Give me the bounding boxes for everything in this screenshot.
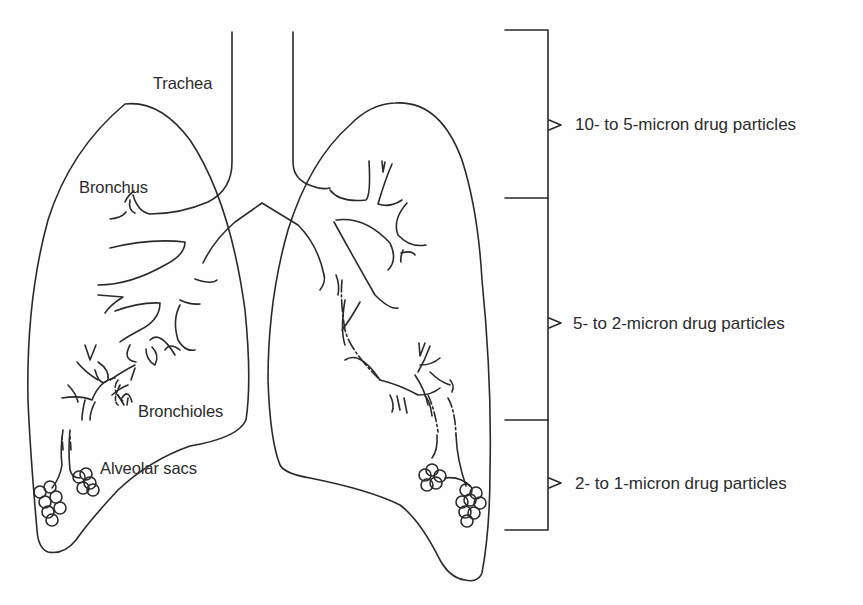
- arrow-marker-upper-icon: [549, 120, 561, 130]
- main-bronchi: [195, 203, 325, 290]
- label-bronchus: Bronchus: [79, 179, 148, 196]
- label-trachea: Trachea: [153, 75, 212, 92]
- range-label-2-to-1-micron: 2- to 1-micron drug particles: [575, 475, 787, 492]
- deposition-bracket: [505, 30, 548, 530]
- right-alveolar-sacs: [419, 464, 486, 527]
- range-arrow-markers: [549, 120, 561, 488]
- label-bronchioles: Bronchioles: [138, 403, 223, 420]
- arrow-marker-lower-icon: [549, 478, 561, 488]
- right-bronchial-tree: [330, 161, 470, 486]
- left-alveolar-sacs: [34, 468, 99, 526]
- lung-illustration: [0, 0, 863, 605]
- left-bronchial-tree: [52, 191, 200, 488]
- label-alveolar-sacs: Alveolar sacs: [100, 460, 197, 477]
- lung-deposition-diagram: Trachea Bronchus Bronchioles Alveolar sa…: [0, 0, 863, 605]
- trachea-outline: [133, 32, 330, 214]
- range-label-5-to-2-micron: 5- to 2-micron drug particles: [573, 315, 785, 332]
- left-lung-outline: [28, 104, 249, 553]
- arrow-marker-middle-icon: [549, 318, 561, 328]
- right-lung-outline: [268, 103, 490, 581]
- range-label-10-to-5-micron: 10- to 5-micron drug particles: [575, 116, 796, 133]
